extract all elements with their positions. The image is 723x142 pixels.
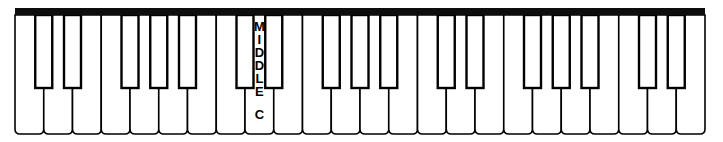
black-key[interactable] <box>35 15 52 88</box>
black-key-group <box>35 15 685 88</box>
black-key[interactable] <box>582 15 599 88</box>
black-key[interactable] <box>467 15 484 88</box>
black-key[interactable] <box>380 15 397 88</box>
black-key[interactable] <box>179 15 196 88</box>
black-key[interactable] <box>323 15 340 88</box>
black-key[interactable] <box>150 15 167 88</box>
black-key[interactable] <box>668 15 685 88</box>
black-key[interactable] <box>524 15 541 88</box>
keyboard-drawing <box>0 0 723 142</box>
black-key[interactable] <box>352 15 369 88</box>
black-key[interactable] <box>64 15 81 88</box>
black-key[interactable] <box>237 15 254 88</box>
black-key[interactable] <box>438 15 455 88</box>
black-key[interactable] <box>265 15 282 88</box>
black-key[interactable] <box>639 15 656 88</box>
black-key[interactable] <box>553 15 570 88</box>
piano-keyboard-diagram: MIDDLEC <box>0 0 723 142</box>
black-key[interactable] <box>122 15 139 88</box>
keyboard-backrail <box>15 8 705 15</box>
